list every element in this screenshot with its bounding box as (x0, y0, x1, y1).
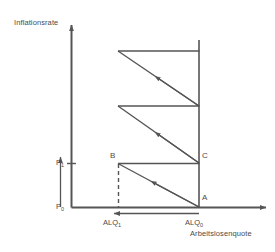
x-tick-alq1-sub: 1 (118, 222, 121, 228)
y-tick-label-p0: P0 (56, 203, 64, 211)
y-tick-label-p1: P1 (56, 159, 64, 167)
y-axis-label: Inflationsrate (14, 19, 58, 27)
diagram-canvas (0, 0, 275, 252)
x-tick-alq1-text: ALQ (103, 218, 118, 227)
point-label-a: A (202, 194, 207, 202)
x-tick-label-alq1: ALQ1 (103, 219, 121, 227)
y-tick-p1-sub: 1 (61, 162, 64, 168)
x-tick-label-alq0: ALQ0 (185, 219, 203, 227)
path-arrow-e-to-f (157, 78, 199, 107)
y-tick-p0-sub: 0 (61, 206, 64, 212)
point-label-b: B (110, 152, 115, 160)
phillips-curve-diagram: Inflationsrate Arbeitslosenquote P1 P0 A… (0, 0, 275, 252)
path-arrow-c-to-d (157, 134, 199, 164)
x-axis-label: Arbeitslosenquote (190, 230, 252, 238)
point-label-c: C (202, 152, 208, 160)
x-tick-alq0-sub: 0 (200, 222, 203, 228)
path-arrow-a-to-b (153, 182, 199, 207)
x-tick-alq0-text: ALQ (185, 218, 200, 227)
